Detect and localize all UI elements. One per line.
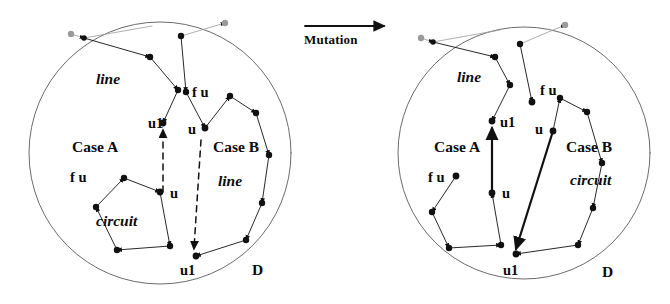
label-line-case-b-left: line (218, 172, 242, 190)
label-u-case-b-left: u (188, 121, 196, 138)
label-u1-case-a-right: u1 (500, 114, 515, 131)
label-case-a-right: Case A (434, 138, 480, 156)
label-domain-right: D (602, 263, 613, 281)
label-case-b-left: Case B (213, 138, 259, 156)
label-u-case-a-right: u (502, 185, 510, 202)
new-edge-case-b-right (516, 131, 553, 249)
external-link-right-b (520, 25, 565, 44)
label-u-case-b-right: u (535, 121, 543, 138)
label-fu-case-a-right: f u (428, 169, 445, 186)
label-circuit-right: circuit (570, 171, 611, 189)
mutation-figure: Mutation line Case A f u circuit u1 u f … (0, 0, 670, 304)
label-case-b-right: Case B (566, 138, 612, 156)
label-u1-case-a-left: u1 (148, 115, 163, 132)
label-domain-left: D (252, 261, 263, 279)
label-u-case-a-left: u (170, 185, 178, 202)
label-line-right-top: line (457, 68, 481, 86)
label-u1-case-b-right: u1 (503, 262, 518, 279)
case-a-line-right (432, 176, 501, 248)
label-fu-case-a-left: f u (70, 169, 87, 186)
label-line-left-top: line (96, 70, 120, 88)
label-case-a-left: Case A (72, 138, 118, 156)
fu-stub-right (520, 44, 532, 102)
label-u1-case-b-left: u1 (180, 262, 195, 279)
label-fu-case-b-left: f u (192, 84, 209, 101)
mutation-label: Mutation (304, 32, 358, 48)
label-fu-case-b-right: f u (540, 82, 557, 99)
mutation-dashed-left-b (194, 140, 201, 248)
label-circuit-left: circuit (96, 212, 137, 230)
tour-path-left-right-top (181, 36, 205, 128)
